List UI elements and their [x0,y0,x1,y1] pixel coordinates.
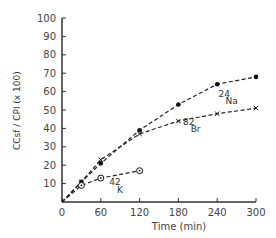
marker-filled-circle [176,102,181,107]
x-tick-label: 0 [59,207,65,218]
annotation-na: Na [226,96,238,106]
y-tick-label: 50 [43,105,56,116]
x-tick-label: 180 [169,207,188,218]
x-tick-label: 120 [130,207,149,218]
y-tick-label: 40 [43,123,56,134]
annotation-br: Br [191,124,201,134]
marker-filled-circle [254,75,259,80]
y-tick-label: 30 [43,141,56,152]
x-tick-label: 300 [246,207,265,218]
marker-circle-dot-center [139,170,141,172]
marker-filled-circle [215,82,220,87]
series-line-82Br [62,108,256,202]
marker-circle-dot-center [81,185,83,187]
svg-text:CCsf / CPl (x 100): CCsf / CPl (x 100) [12,71,22,150]
y-tick-label: 90 [43,31,56,42]
y-tick-label: 100 [37,13,56,24]
y-tick-label: 20 [43,160,56,171]
y-tick-label: 70 [43,68,56,79]
x-tick-label: 240 [208,207,227,218]
y-tick-label: 10 [43,178,56,189]
annotation-k: K [117,185,124,195]
x-axis-label: Time (min) [151,221,206,232]
x-tick-label: 60 [94,207,107,218]
y-tick-label: 80 [43,49,56,60]
y-tick-label: 60 [43,86,56,97]
y-axis-label: CCsf / CPl (x 100) [12,71,22,150]
marker-circle-dot-center [100,177,102,179]
chart: 102030405060708090100060120180240300Time… [0,0,276,238]
